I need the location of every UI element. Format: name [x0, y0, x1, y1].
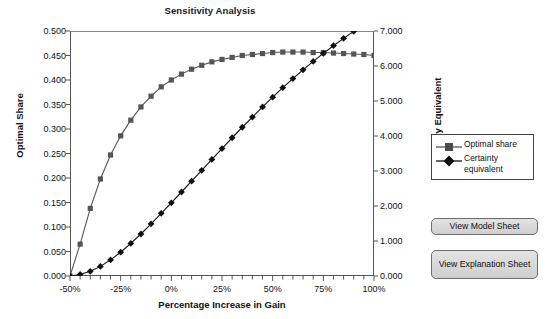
chart-title: Sensitivity Analysis — [0, 5, 420, 16]
x-axis-tick-label: -25% — [96, 284, 146, 294]
data-point-marker — [77, 271, 84, 276]
legend-item-optimal-share: Optimal share — [436, 139, 528, 151]
data-point-marker — [250, 52, 255, 57]
data-point-marker — [148, 94, 153, 99]
y-axis-left-tick-label: 0.150 — [20, 198, 66, 208]
y-axis-left-tick-label: 0.300 — [20, 124, 66, 134]
legend-square-marker-icon — [436, 139, 462, 151]
view-model-sheet-button[interactable]: View Model Sheet — [431, 218, 538, 235]
y-axis-left-tick-label: 0.200 — [20, 173, 66, 183]
y-axis-left-tick-label: 0.450 — [20, 51, 66, 61]
series-line-0 — [70, 52, 374, 276]
y-axis-left-ticks: 0.0000.0500.1000.1500.2000.2500.3000.350… — [18, 31, 66, 276]
data-point-marker — [78, 242, 83, 247]
x-axis-title: Percentage Increase in Gain — [40, 299, 404, 310]
data-point-marker — [331, 50, 336, 55]
data-point-marker — [311, 50, 316, 55]
data-point-marker — [280, 49, 285, 54]
data-point-marker — [169, 77, 174, 82]
data-point-marker — [300, 49, 305, 54]
data-point-marker — [128, 118, 133, 123]
legend-label-certainty-equivalent: Certainty equivalent — [464, 153, 528, 174]
y-axis-left-tick-label: 0.350 — [20, 100, 66, 110]
y-axis-left-title: Optimal Share — [14, 66, 25, 186]
chart-legend: Optimal share Certainty equivalent — [431, 134, 534, 180]
x-axis-tick-label: 100% — [349, 284, 399, 294]
data-point-marker — [88, 206, 93, 211]
series-line-1 — [70, 31, 374, 276]
data-point-marker — [230, 55, 235, 60]
data-point-marker — [351, 51, 356, 56]
y-axis-left-tick-label: 0.050 — [20, 247, 66, 257]
data-point-marker — [199, 63, 204, 68]
data-point-marker — [179, 72, 184, 77]
legend-label-optimal-share: Optimal share — [464, 139, 517, 150]
y-axis-left-tick-label: 0.400 — [20, 75, 66, 85]
view-explanation-sheet-button[interactable]: View Explanation Sheet — [431, 250, 538, 279]
data-point-marker — [240, 53, 245, 58]
data-point-marker — [341, 51, 346, 56]
y-axis-left-tick-label: 0.000 — [20, 271, 66, 281]
x-axis-tick-label: 0% — [146, 284, 196, 294]
data-point-marker — [138, 104, 143, 109]
data-point-marker — [98, 176, 103, 181]
x-axis-ticks: -50%-25%0%25%50%75%100% — [70, 284, 374, 298]
y-axis-left-tick-label: 0.100 — [20, 222, 66, 232]
side-panel: Optimal share Certainty equivalent View … — [420, 0, 552, 319]
plot-area — [70, 31, 374, 276]
data-point-marker — [189, 67, 194, 72]
sensitivity-analysis-screen: Sensitivity Analysis 0.0000.0500.1000.15… — [0, 0, 552, 319]
data-point-marker — [260, 51, 265, 56]
data-point-marker — [87, 268, 94, 275]
data-point-marker — [219, 57, 224, 62]
data-point-marker — [361, 52, 366, 57]
chart-panel: Sensitivity Analysis 0.0000.0500.1000.15… — [0, 0, 420, 319]
data-point-marker — [108, 152, 113, 157]
x-axis-tick-label: 50% — [248, 284, 298, 294]
x-axis-tick-label: 25% — [197, 284, 247, 294]
data-point-marker — [118, 133, 123, 138]
data-point-marker — [290, 49, 295, 54]
data-point-marker — [159, 84, 164, 89]
data-point-marker — [270, 50, 275, 55]
data-point-marker — [97, 263, 104, 270]
x-axis-tick-label: -50% — [45, 284, 95, 294]
data-point-marker — [209, 59, 214, 64]
y-axis-left-tick-label: 0.500 — [20, 26, 66, 36]
y-axis-left-tick-label: 0.250 — [20, 149, 66, 159]
legend-item-certainty-equivalent: Certainty equivalent — [436, 153, 528, 174]
x-axis-tick-label: 75% — [298, 284, 348, 294]
data-point-marker — [371, 53, 374, 58]
legend-diamond-marker-icon — [436, 153, 462, 165]
